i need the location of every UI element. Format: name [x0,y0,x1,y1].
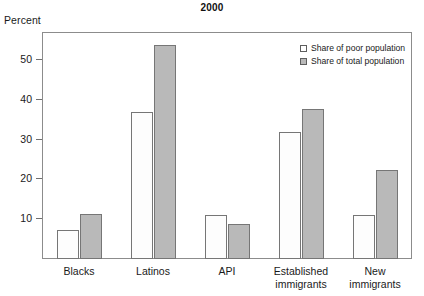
bar-total-0 [80,214,102,259]
x-axis-label-4: New immigrants [320,265,424,291]
y-axis-tick-label: 40 [20,93,32,106]
bar-total-3 [302,109,324,259]
y-axis-tick-label: 30 [20,133,32,146]
legend-item-label: Share of total population [311,56,404,68]
y-axis-tick-label: 10 [20,212,32,225]
legend-swatch-total [300,58,307,65]
legend-item-1: Share of total population [300,56,405,68]
bar-total-2 [228,224,250,259]
y-axis-tick-label: 50 [20,53,32,66]
bar-total-1 [154,45,176,259]
y-axis-tick-mark [36,178,42,179]
chart-legend: Share of poor populationShare of total p… [300,43,405,68]
legend-item-0: Share of poor population [300,43,405,55]
legend-item-label: Share of poor population [311,43,405,55]
y-axis-unit-label: Percent [4,14,41,26]
y-axis-tick-mark [36,99,42,100]
y-axis-tick-mark [36,139,42,140]
bar-chart: 2000 Percent 1020304050 BlacksLatinosAPI… [0,0,424,296]
y-axis-tick-mark [36,59,42,60]
y-axis-tick-label: 20 [20,172,32,185]
chart-title: 2000 [0,2,424,13]
y-axis-tick-mark [36,218,42,219]
bar-poor-0 [57,230,79,259]
bar-poor-3 [279,132,301,259]
bar-poor-2 [205,215,227,259]
bar-poor-4 [353,215,375,259]
legend-swatch-poor [300,45,307,52]
bar-poor-1 [131,112,153,259]
bar-total-4 [376,170,398,259]
